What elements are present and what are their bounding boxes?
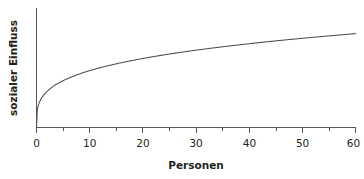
x-axis-major-ticks (37, 128, 356, 134)
x-tick-label: 60 (347, 137, 360, 149)
x-tick-label: 50 (296, 137, 309, 149)
y-axis-title: sozialer Einfluss (7, 20, 19, 116)
x-tick-label: 20 (136, 137, 149, 149)
data-curve-sozialer-einfluss (37, 34, 356, 128)
line-chart: 0 10 20 30 40 50 60 Personen sozialer Ei… (0, 0, 364, 179)
x-tick-label: 10 (83, 137, 96, 149)
x-axis-title: Personen (168, 159, 224, 171)
x-tick-label: 40 (243, 137, 256, 149)
chart-figure: 0 10 20 30 40 50 60 Personen sozialer Ei… (0, 0, 364, 179)
x-tick-label: 0 (33, 137, 40, 149)
x-tick-label: 30 (189, 137, 202, 149)
x-axis-tick-labels: 0 10 20 30 40 50 60 (33, 137, 360, 149)
